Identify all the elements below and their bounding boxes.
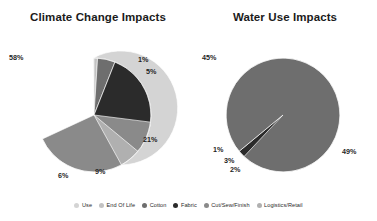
chart-legend: Use End Of Life Cotton Fabric Cut/Sew/Fi… xyxy=(0,198,377,212)
pie-label-cotton: 5% xyxy=(146,68,156,76)
chart-panel-climate-change-impacts: Climate Change Impacts 58% 1% 5% 21% xyxy=(0,0,188,196)
legend-swatch-cut-sew-finish-icon xyxy=(204,203,209,208)
pie-svg-climate xyxy=(32,53,156,177)
legend-label-logistics-retail: Logistics/Retail xyxy=(264,202,302,209)
pie-label-use: 58% xyxy=(9,54,23,62)
pie-label-cotton: 49% xyxy=(342,148,356,156)
legend-item-logistics-retail[interactable]: Logistics/Retail xyxy=(257,202,303,209)
pie-label-use: 45% xyxy=(202,54,216,62)
pie-label-cut-sew-finish: 9% xyxy=(95,168,105,176)
pie-label-end-of-life: 1% xyxy=(138,56,148,64)
chart-title-climate-change-impacts: Climate Change Impacts xyxy=(0,10,192,24)
pie-svg-water xyxy=(221,53,345,177)
pie-slice-cotton[interactable] xyxy=(203,35,364,196)
legend-item-cut-sew-finish[interactable]: Cut/Sew/Finish xyxy=(204,202,250,209)
legend-label-cut-sew-finish: Cut/Sew/Finish xyxy=(211,202,249,209)
chart-title-water-use-impacts: Water Use Impacts xyxy=(189,10,377,24)
legend-label-cotton: Cotton xyxy=(150,202,167,209)
legend-swatch-cotton-icon xyxy=(142,203,147,208)
legend-swatch-end-of-life-icon xyxy=(99,203,104,208)
legend-item-cotton[interactable]: Cotton xyxy=(142,202,166,209)
legend-item-end-of-life[interactable]: End Of Life xyxy=(99,202,135,209)
legend-label-fabric: Fabric xyxy=(181,202,197,209)
legend-item-fabric[interactable]: Fabric xyxy=(173,202,196,209)
legend-label-use: Use xyxy=(82,202,92,209)
pie-label-fabric: 3% xyxy=(224,157,234,165)
legend-label-end-of-life: End Of Life xyxy=(107,202,136,209)
legend-swatch-logistics-retail-icon xyxy=(257,203,262,208)
pie-label-fabric: 21% xyxy=(143,136,157,144)
pie-label-logistics-retail: 6% xyxy=(58,172,68,180)
pie-label-cut-sew-finish: 2% xyxy=(230,166,240,174)
legend-swatch-fabric-icon xyxy=(173,203,178,208)
pie-label-end-of-life: 1% xyxy=(213,146,223,154)
legend-item-use[interactable]: Use xyxy=(74,202,92,209)
legend-swatch-use-icon xyxy=(74,203,79,208)
pie-chart-figure: Climate Change Impacts 58% 1% 5% 21% xyxy=(0,0,377,221)
chart-panel-water-use-impacts: Water Use Impacts 45% 49% 2% 3% 1% xyxy=(189,0,377,196)
